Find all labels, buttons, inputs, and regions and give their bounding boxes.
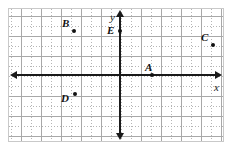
x-axis-line [17, 74, 215, 76]
point-b-dot [72, 29, 76, 33]
y-axis-down-arrow-icon [116, 133, 124, 140]
gridline-major-horizontal [9, 116, 223, 117]
y-axis-up-arrow-icon [116, 10, 124, 17]
point-e-dot [118, 29, 122, 33]
point-a-label: A [145, 62, 152, 73]
point-d-label: D [61, 93, 69, 104]
y-axis-label: y [110, 12, 115, 23]
x-axis-left-arrow-icon [10, 71, 17, 79]
coordinate-plane-figure: x y A B C D E [0, 0, 233, 152]
gridline-major-horizontal [9, 36, 223, 37]
y-axis-line [119, 17, 121, 133]
point-c-dot [211, 43, 215, 47]
x-axis-label: x [214, 82, 219, 93]
gridline-major-horizontal [9, 56, 223, 57]
point-a-dot [150, 73, 154, 77]
gridline-major-horizontal [9, 96, 223, 97]
point-d-dot [73, 92, 77, 96]
point-e-label: E [107, 25, 114, 36]
point-b-label: B [62, 18, 69, 29]
point-c-label: C [201, 32, 208, 43]
x-axis-right-arrow-icon [215, 71, 222, 79]
